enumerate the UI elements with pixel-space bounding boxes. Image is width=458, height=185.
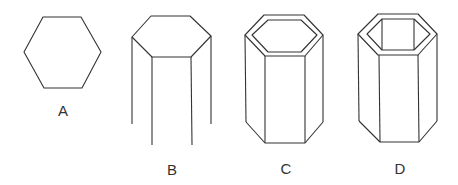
label-b: B [167,161,177,178]
figure-a-hexagon [24,17,101,88]
label-c: C [281,160,292,177]
figure-b-prism-wireframe [132,16,211,145]
figure-c-hollow-prism [245,15,323,143]
figure-d-hollow-prism-inner [358,14,437,142]
label-a: A [58,102,68,119]
label-d: D [395,160,406,177]
hexagon-diagram: A B C D [0,0,458,185]
